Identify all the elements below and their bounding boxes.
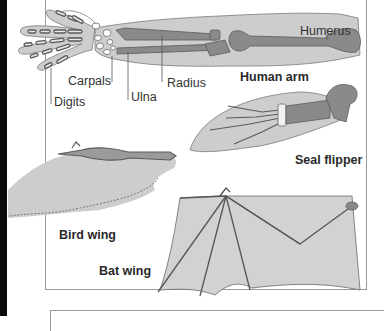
title-bird-wing: Bird wing bbox=[59, 229, 116, 242]
seal-flipper-illustration bbox=[190, 85, 357, 152]
bird-wing-illustration bbox=[8, 142, 176, 218]
label-ulna: Ulna bbox=[131, 91, 157, 104]
label-carpals: Carpals bbox=[68, 75, 111, 88]
title-bat-wing: Bat wing bbox=[99, 265, 151, 278]
bat-wing-illustration bbox=[158, 188, 360, 296]
label-humerus: Humerus bbox=[300, 25, 351, 38]
label-digits: Digits bbox=[54, 96, 85, 109]
label-radius: Radius bbox=[167, 77, 206, 90]
title-human-arm: Human arm bbox=[240, 71, 309, 84]
title-seal-flipper: Seal flipper bbox=[295, 154, 362, 167]
